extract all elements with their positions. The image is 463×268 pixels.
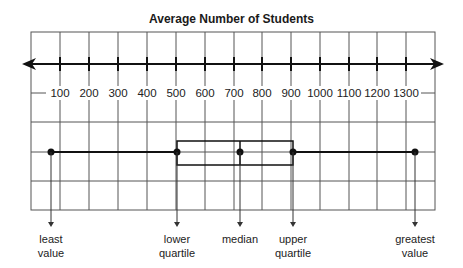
tick-label: 1200 — [363, 86, 391, 100]
tick-label: 900 — [280, 86, 301, 100]
callout-pointers — [51, 152, 415, 224]
down-arrow-icon — [48, 222, 54, 227]
median-label: median — [222, 232, 258, 246]
tick-label: 100 — [49, 86, 70, 100]
callout-arrowheads — [48, 222, 418, 227]
down-arrow-icon — [412, 222, 418, 227]
down-arrow-icon — [174, 222, 180, 227]
down-arrow-icon — [290, 222, 296, 227]
tick-label: 400 — [136, 86, 157, 100]
least-value-label: least value — [38, 232, 64, 260]
tick-label: 200 — [78, 86, 99, 100]
box-plot-graphic — [0, 0, 463, 268]
number-line — [22, 57, 444, 71]
tick-label: 1100 — [336, 86, 363, 100]
tick-label: 1000 — [306, 86, 334, 100]
tick-label: 300 — [107, 86, 128, 100]
lower-quartile-label: lower quartile — [159, 232, 195, 260]
down-arrow-icon — [237, 222, 243, 227]
tick-label: 800 — [251, 86, 272, 100]
greatest-value-label: greatest value — [395, 232, 435, 260]
upper-quartile-label: upper quartile — [275, 232, 311, 260]
tick-label: 500 — [165, 86, 186, 100]
box — [177, 141, 293, 165]
tick-label: 700 — [223, 86, 244, 100]
tick-label: 1300 — [392, 86, 420, 100]
tick-label: 600 — [194, 86, 215, 100]
